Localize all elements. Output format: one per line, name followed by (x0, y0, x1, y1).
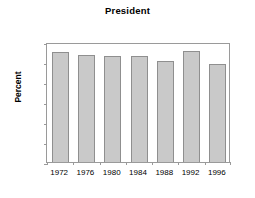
y-tick-mark (44, 144, 47, 145)
y-axis-label: Percent (13, 57, 23, 117)
y-tick-mark (44, 84, 47, 85)
x-tick-label: 1996 (201, 168, 233, 177)
x-tick-mark (126, 162, 127, 165)
bar (104, 56, 121, 162)
bar (131, 56, 148, 162)
plot-area: 0102030405060 (46, 43, 230, 163)
bar (52, 52, 69, 162)
y-tick-mark (44, 124, 47, 125)
x-tick-mark (73, 162, 74, 165)
x-tick-mark (100, 162, 101, 165)
x-tick-mark (152, 162, 153, 165)
bar (78, 55, 95, 162)
bar (183, 51, 200, 162)
y-tick-mark (44, 64, 47, 65)
chart-title: President (0, 5, 255, 16)
y-tick-mark (44, 104, 47, 105)
x-tick-mark (47, 162, 48, 165)
x-tick-mark (205, 162, 206, 165)
bar (157, 61, 174, 162)
bar (209, 64, 226, 162)
x-tick-mark (230, 162, 231, 165)
x-tick-mark (178, 162, 179, 165)
y-tick-mark (44, 44, 47, 45)
chart-figure: President Percent 0102030405060 19721976… (0, 0, 255, 198)
